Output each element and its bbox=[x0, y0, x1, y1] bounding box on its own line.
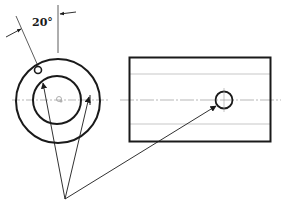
side-view-rectangle bbox=[130, 58, 271, 142]
right-dimension-arrow bbox=[60, 12, 76, 14]
angle-label: 20° bbox=[32, 16, 53, 29]
left-dimension-arrow bbox=[6, 29, 21, 37]
side-view bbox=[120, 58, 281, 142]
small-hole-circle bbox=[35, 67, 42, 74]
end-view bbox=[12, 59, 108, 143]
leader-to-side-hole bbox=[65, 106, 216, 199]
technical-drawing bbox=[0, 0, 283, 205]
center-dot bbox=[60, 100, 63, 103]
